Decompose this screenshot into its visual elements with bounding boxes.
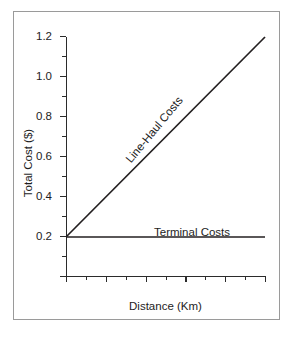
y-tick-label: 1.2 [36,30,52,42]
series-layer [66,37,265,277]
y-tick-label: 0.4 [36,190,52,202]
chart-figure: 0.2 0.4 0.6 0.8 1.0 1.2 20 40 [0,0,295,338]
y-tick-label: 1.0 [36,70,52,82]
x-axis-title: Distance (Km) [66,300,265,312]
y-tick-label: 0.2 [36,230,52,242]
plot-area: 0.2 0.4 0.6 0.8 1.0 1.2 20 40 [66,37,265,277]
series-line-haul-costs [66,37,265,237]
x-tick-major: 100 [265,276,266,282]
y-tick-label: 0.8 [36,110,52,122]
y-axis-title: Total Cost ($) [22,103,34,223]
y-tick-label: 0.6 [36,150,52,162]
series-label-terminal-costs: Terminal Costs [154,226,230,238]
